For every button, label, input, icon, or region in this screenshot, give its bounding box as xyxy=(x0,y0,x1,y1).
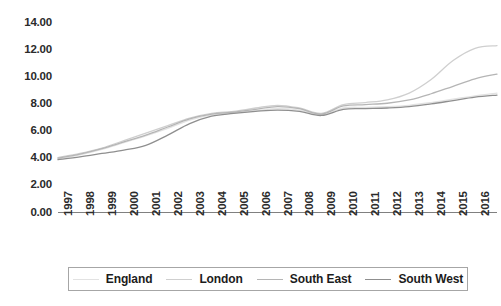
legend-label: South East xyxy=(290,272,352,286)
x-tick-label: 1998 xyxy=(85,191,97,216)
x-tick-label: 2009 xyxy=(326,191,338,216)
x-tick-label: 2008 xyxy=(304,191,316,216)
x-tick-label: 2012 xyxy=(392,191,404,216)
x-tick-label: 2007 xyxy=(283,191,295,216)
legend-swatch-icon xyxy=(257,279,283,280)
x-tick-label: 2000 xyxy=(129,191,141,216)
legend-swatch-icon xyxy=(73,279,99,280)
x-axis: 1997199819992000200120022003200420052006… xyxy=(0,0,501,306)
legend-item[interactable]: London xyxy=(166,272,242,286)
legend-item[interactable]: England xyxy=(73,272,153,286)
legend-label: South West xyxy=(398,272,463,286)
legend-swatch-icon xyxy=(166,279,192,280)
x-tick-label: 2006 xyxy=(261,191,273,216)
x-tick-label: 2004 xyxy=(217,191,229,216)
legend-swatch-icon xyxy=(365,279,391,280)
x-tick-label: 2013 xyxy=(414,191,426,216)
x-tick-label: 2003 xyxy=(195,191,207,216)
x-tick-label: 2015 xyxy=(458,191,470,216)
legend-item[interactable]: South East xyxy=(257,272,352,286)
legend-label: England xyxy=(106,272,153,286)
chart-legend: EnglandLondonSouth EastSouth West xyxy=(68,267,468,291)
x-tick-label: 2014 xyxy=(436,191,448,216)
x-tick-label: 2001 xyxy=(151,191,163,216)
x-tick-label: 2016 xyxy=(480,191,492,216)
x-tick-label: 1997 xyxy=(63,191,75,216)
x-tick-label: 1999 xyxy=(107,191,119,216)
legend-item[interactable]: South West xyxy=(365,272,463,286)
legend-label: London xyxy=(199,272,242,286)
x-tick-label: 2011 xyxy=(370,192,382,216)
line-chart: 0.002.004.006.008.0010.0012.0014.00 1997… xyxy=(0,0,501,306)
x-tick-label: 2005 xyxy=(239,191,251,216)
x-tick-label: 2002 xyxy=(173,191,185,216)
x-tick-label: 2010 xyxy=(348,191,360,216)
